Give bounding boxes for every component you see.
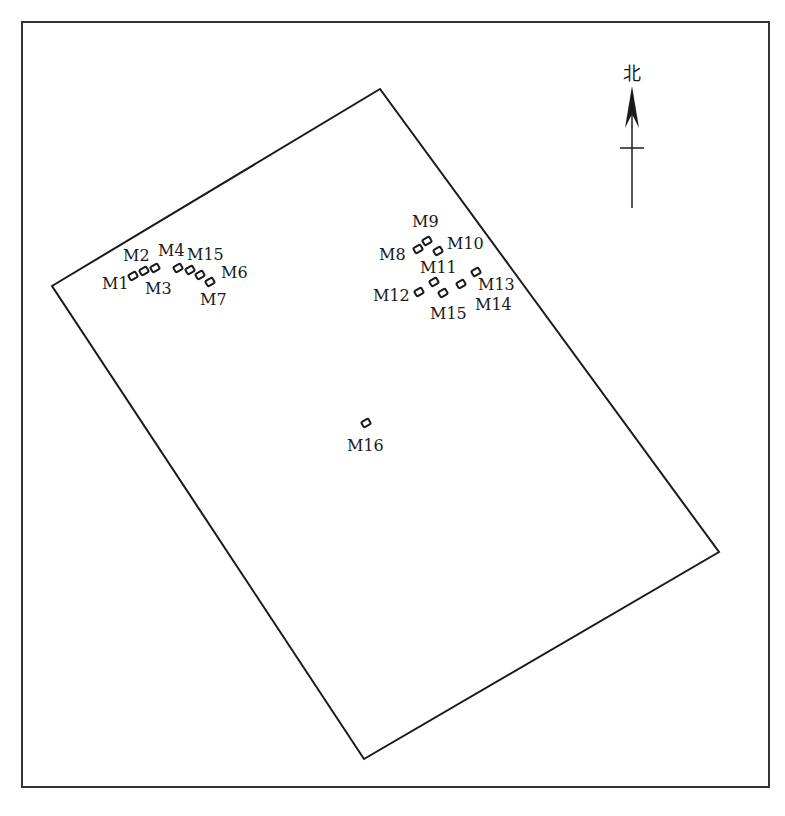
- grave-m6: M6: [195, 263, 248, 282]
- grave-marker-icon: [413, 244, 423, 253]
- north-label: 北: [623, 63, 641, 84]
- map-frame: [22, 22, 769, 787]
- grave-label: M9: [412, 212, 439, 231]
- grave-label: M10: [447, 234, 484, 253]
- grave-label: M4: [158, 241, 185, 260]
- grave-marker-icon: [414, 287, 424, 296]
- grave-m3: M3: [145, 263, 172, 298]
- grave-marker-icon: [185, 265, 195, 274]
- grave-m4: M4: [158, 241, 185, 273]
- grave-marker-icon: [429, 277, 439, 286]
- grave-label: M7: [200, 290, 227, 309]
- graves-layer: M1M2M3M4M15M6M7M8M9M10M11M12M13M14M15M16: [102, 212, 515, 455]
- grave-m2: M2: [123, 246, 150, 276]
- grave-m9: M9: [412, 212, 439, 246]
- grave-m12: M12: [373, 286, 424, 305]
- grave-label: M14: [475, 295, 512, 314]
- grave-label: M6: [221, 263, 248, 282]
- grave-m16: M16: [347, 418, 384, 455]
- grave-marker-icon: [205, 277, 215, 286]
- grave-label: M16: [347, 436, 384, 455]
- grave-marker-icon: [361, 418, 371, 427]
- grave-label: M15: [187, 245, 224, 264]
- grave-m15b: M15: [430, 288, 467, 323]
- grave-label: M3: [145, 279, 172, 298]
- grave-m8: M8: [379, 244, 423, 264]
- grave-marker-icon: [128, 271, 138, 280]
- grave-m1: M1: [102, 271, 138, 293]
- north-arrow: 北: [620, 63, 644, 208]
- grave-marker-icon: [195, 270, 205, 279]
- grave-label: M1: [102, 274, 129, 293]
- grave-marker-icon: [456, 279, 466, 288]
- grave-label: M13: [478, 275, 515, 294]
- grave-label: M11: [420, 258, 457, 277]
- grave-label: M12: [373, 286, 410, 305]
- grave-label: M8: [379, 245, 406, 264]
- grave-marker-icon: [422, 236, 432, 245]
- grave-marker-icon: [438, 288, 448, 297]
- site-plan-diagram: 北 M1M2M3M4M15M6M7M8M9M10M11M12M13M14M15M…: [0, 0, 785, 816]
- grave-marker-icon: [139, 266, 149, 275]
- grave-label: M2: [123, 246, 150, 265]
- grave-m13: M13: [471, 267, 515, 294]
- grave-marker-icon: [173, 263, 183, 272]
- grave-marker-icon: [150, 263, 160, 272]
- grave-m11: M11: [420, 258, 457, 287]
- grave-m10: M10: [433, 234, 484, 256]
- grave-m15a: M15: [185, 245, 224, 275]
- grave-m7: M7: [200, 277, 227, 309]
- grave-label: M15: [430, 304, 467, 323]
- site-boundary: [52, 89, 719, 759]
- grave-marker-icon: [433, 246, 443, 255]
